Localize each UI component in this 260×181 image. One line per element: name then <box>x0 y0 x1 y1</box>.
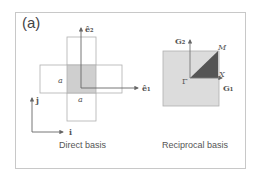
direct-lattice: ê₂ ê₁ a a j i <box>32 24 151 137</box>
X-label: X <box>218 70 225 79</box>
G2-label: G₂ <box>175 36 186 46</box>
gamma-label: Γ <box>182 77 188 86</box>
j-label: j <box>35 95 39 105</box>
i-label: i <box>69 127 72 137</box>
diagram-canvas: ê₂ ê₁ a a j i G₂ G₁ Γ X M <box>0 0 260 181</box>
direct-basis-caption: Direct basis <box>59 140 106 150</box>
side-label-a-bottom: a <box>78 95 83 104</box>
G1-label: G₁ <box>223 83 233 93</box>
reciprocal-lattice: G₂ G₁ Γ X M <box>163 36 233 106</box>
unit-cell-shaded <box>67 65 96 93</box>
side-label-a-left: a <box>58 76 63 85</box>
e1-label: ê₁ <box>142 83 151 93</box>
reciprocal-basis-caption: Reciprocal basis <box>162 140 228 150</box>
e2-label: ê₂ <box>85 24 94 34</box>
M-label: M <box>217 43 227 52</box>
